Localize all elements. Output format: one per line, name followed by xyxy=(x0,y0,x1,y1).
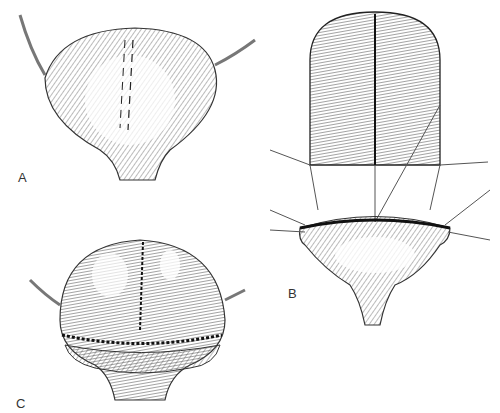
panel-a-drawing xyxy=(20,15,255,180)
panel-label-b: B xyxy=(288,286,297,301)
panel-b-drawing xyxy=(270,12,490,325)
panel-label-c: C xyxy=(16,396,25,411)
panel-label-a: A xyxy=(18,170,27,185)
illustration-canvas xyxy=(0,0,500,413)
panel-c-drawing xyxy=(30,240,245,400)
